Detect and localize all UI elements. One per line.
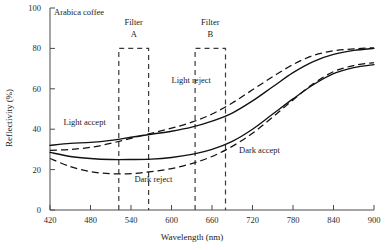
x-tick-label-780: 780 [287, 215, 300, 225]
filter-a-label: Filter [124, 17, 143, 27]
y-axis-tick-labels: 100 80 60 40 20 0 [28, 3, 41, 215]
annotation-dark-accept: Dark accept [239, 145, 280, 155]
curve-light-reject [50, 48, 374, 151]
filter-bands [119, 48, 226, 210]
x-tick-label-900: 900 [368, 215, 381, 225]
y-tick-label-40: 40 [33, 124, 42, 134]
filter-band-a [119, 48, 149, 210]
y-axis-title: Reflectivity (%) [4, 89, 14, 147]
y-tick-label-0: 0 [37, 205, 41, 215]
x-tick-label-720: 720 [246, 215, 259, 225]
annotation-dark-reject: Dark reject [134, 174, 173, 184]
x-tick-label-660: 660 [206, 215, 219, 225]
y-axis-ticks [50, 8, 55, 210]
x-tick-label-600: 600 [165, 215, 178, 225]
x-tick-label-840: 840 [327, 215, 340, 225]
y-tick-label-80: 80 [33, 43, 42, 53]
y-tick-label-20: 20 [33, 165, 42, 175]
curve-group [50, 48, 374, 174]
chart-root: 100 80 60 40 20 0 420 480 540 600 660 72… [0, 0, 385, 250]
chart-title: Arabica coffee [54, 7, 104, 17]
y-tick-label-100: 100 [28, 3, 41, 13]
x-tick-label-540: 540 [125, 215, 138, 225]
curve-light-accept [50, 48, 374, 145]
reflectivity-chart: 100 80 60 40 20 0 420 480 540 600 660 72… [0, 0, 385, 250]
filter-b-sublabel: B [207, 29, 213, 39]
y-tick-label-60: 60 [33, 84, 42, 94]
x-tick-label-420: 420 [44, 215, 57, 225]
filter-b-label: Filter [201, 17, 220, 27]
annotation-light-accept: Light accept [64, 117, 107, 127]
x-axis-title: Wavelength (nm) [161, 232, 224, 242]
x-tick-label-480: 480 [84, 215, 97, 225]
annotation-light-reject: Light reject [172, 75, 212, 85]
filter-band-b [195, 48, 225, 210]
x-axis-tick-labels: 420 480 540 600 660 720 780 840 900 [44, 215, 381, 225]
x-axis-ticks [50, 205, 374, 210]
filter-a-sublabel: A [131, 29, 138, 39]
